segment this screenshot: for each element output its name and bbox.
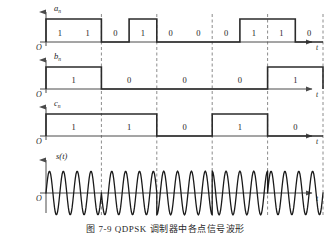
panel-st: Ots(t) bbox=[36, 151, 323, 215]
qdpsk-waveform-figure: Otan1101000110Otbn10001Otcn11010Ots(t) bbox=[0, 0, 331, 233]
bit-label: 1 bbox=[85, 28, 89, 38]
bit-label: 1 bbox=[238, 122, 242, 132]
bit-label: 1 bbox=[279, 28, 283, 38]
bit-label: 1 bbox=[72, 122, 76, 132]
bit-label: 1 bbox=[252, 28, 256, 38]
origin-label: O bbox=[36, 194, 42, 203]
signal-label-st: s(t) bbox=[56, 151, 68, 161]
bit-label: 1 bbox=[293, 75, 297, 85]
bit-label: 0 bbox=[196, 28, 200, 38]
time-axis-label: t bbox=[316, 90, 319, 99]
bit-label: 0 bbox=[224, 28, 228, 38]
bit-label: 0 bbox=[293, 122, 297, 132]
signal-label-cn: cn bbox=[54, 98, 61, 109]
bit-label: 0 bbox=[307, 28, 311, 38]
bit-label: 1 bbox=[141, 28, 145, 38]
signal-label-an: an bbox=[54, 3, 61, 14]
bit-label: 0 bbox=[238, 75, 242, 85]
panel-an: Otan1101000110 bbox=[36, 3, 323, 52]
panel-cn: Otcn11010 bbox=[36, 98, 323, 146]
origin-label: O bbox=[36, 90, 42, 99]
bit-label: 0 bbox=[169, 28, 173, 38]
time-axis-label: t bbox=[316, 137, 319, 146]
bit-label: 1 bbox=[127, 122, 131, 132]
waveform-svg: Otan1101000110Otbn10001Otcn11010Ots(t) bbox=[0, 0, 331, 233]
bit-label: 0 bbox=[113, 28, 117, 38]
bit-label: 0 bbox=[182, 122, 186, 132]
bit-label: 0 bbox=[182, 75, 186, 85]
bit-label: 0 bbox=[127, 75, 131, 85]
bit-label: 1 bbox=[72, 75, 76, 85]
time-axis-label: t bbox=[316, 43, 319, 52]
origin-label: O bbox=[36, 137, 42, 146]
signal-label-bn: bn bbox=[54, 51, 61, 62]
figure-caption: 图 7-9 QDPSK 调制器中各点信号波形 bbox=[0, 222, 331, 233]
origin-label: O bbox=[36, 43, 42, 52]
panel-bn: Otbn10001 bbox=[36, 51, 323, 99]
bit-label: 1 bbox=[58, 28, 62, 38]
